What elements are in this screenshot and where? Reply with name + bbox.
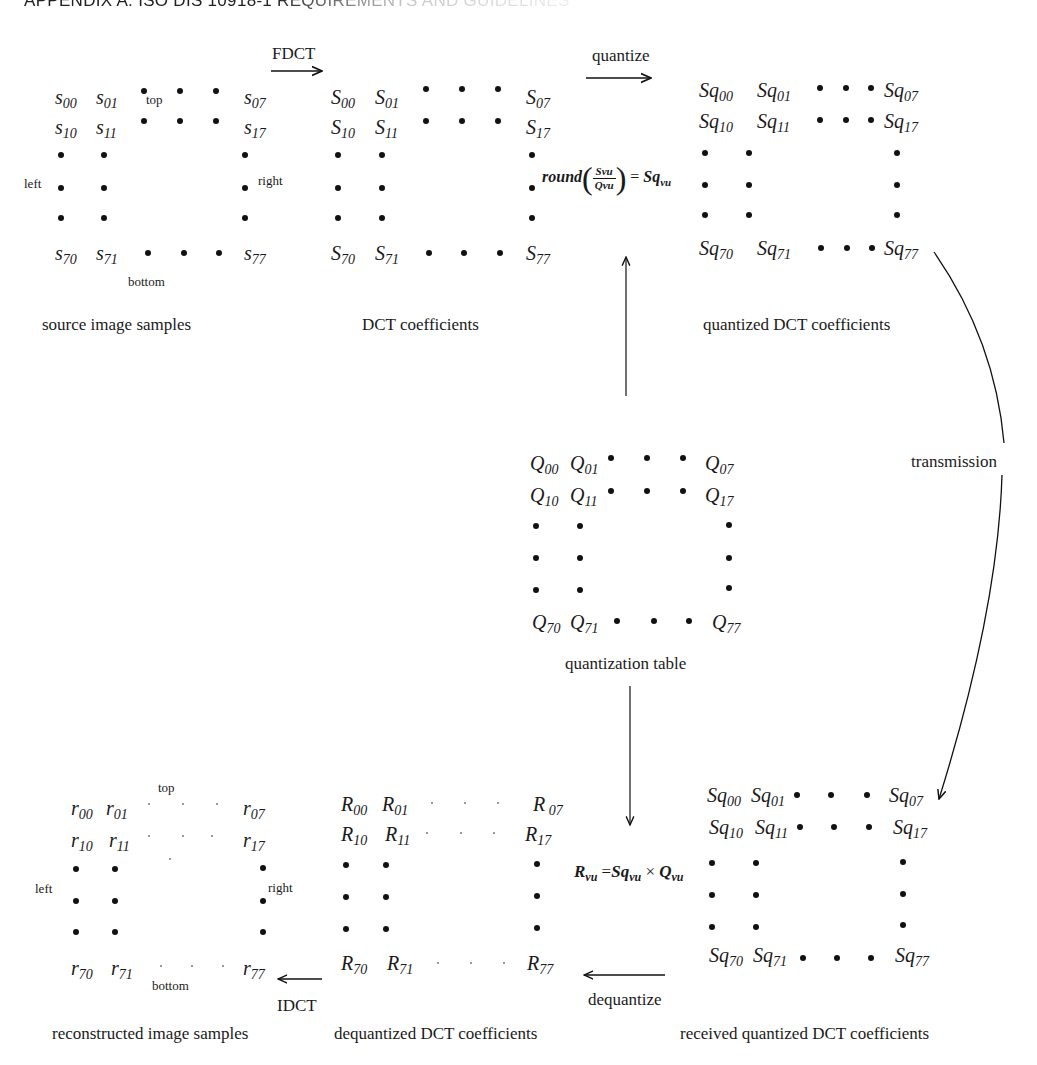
- fdct-label: FDCT: [272, 44, 315, 64]
- ellipsis-dot: [58, 215, 64, 221]
- ellipsis-dot: [900, 859, 906, 865]
- cell-r11: r11: [109, 830, 130, 854]
- cell-Sq11-received: Sq11: [755, 817, 788, 841]
- ellipsis-dot: [753, 860, 759, 866]
- ellipsis-dot: [493, 832, 495, 834]
- cell-S70: S70: [331, 243, 355, 267]
- ellipsis-dot: [753, 924, 759, 930]
- ellipsis-dot: [181, 250, 187, 256]
- ellipsis-dot: [726, 555, 732, 561]
- cell-r07: r07: [243, 798, 265, 822]
- cell-R01: R01: [382, 794, 408, 818]
- cell-r10: r10: [71, 830, 93, 854]
- cell-Q10: Q10: [530, 485, 558, 509]
- ellipsis-dot: [383, 862, 389, 868]
- cell-S07: S07: [526, 87, 550, 111]
- cell-r00: r00: [71, 798, 93, 822]
- transmission-curve-lower: [939, 475, 1002, 799]
- ellipsis-dot: [379, 185, 385, 191]
- ellipsis-dot: [101, 185, 107, 191]
- cell-Sq01-received: Sq01: [751, 785, 785, 809]
- cell-Sq00-received: Sq00: [707, 785, 741, 809]
- ellipsis-dot: [343, 926, 349, 932]
- ellipsis-dot: [868, 955, 874, 961]
- cell-Q07: Q07: [705, 453, 733, 477]
- cell-Sq70-received: Sq70: [709, 945, 743, 969]
- ellipsis-dot: [177, 88, 183, 94]
- ellipsis-dot: [141, 118, 147, 124]
- ellipsis-dot: [746, 212, 752, 218]
- source-left-label: left: [24, 176, 41, 192]
- ellipsis-dot: [702, 212, 708, 218]
- ellipsis-dot: [497, 802, 499, 804]
- cell-S77: S77: [526, 243, 550, 267]
- ellipsis-dot: [58, 152, 64, 158]
- ellipsis-dot: [379, 152, 385, 158]
- ellipsis-dot: [148, 835, 150, 837]
- ellipsis-dot: [470, 962, 472, 964]
- ellipsis-dot: [651, 618, 657, 624]
- cell-Q77: Q77: [712, 612, 740, 636]
- ellipsis-dot: [431, 802, 433, 804]
- cell-Sq10: Sq10: [699, 111, 733, 135]
- cell-Sq11: Sq11: [757, 111, 790, 135]
- cell-R70: R70: [341, 953, 367, 977]
- ellipsis-dot: [169, 858, 171, 860]
- ellipsis-dot: [843, 117, 849, 123]
- arrows-layer: [0, 0, 1037, 1065]
- cell-Sq17: Sq17: [884, 111, 918, 135]
- cell-S10: S10: [331, 117, 355, 141]
- ellipsis-dot: [702, 182, 708, 188]
- ellipsis-dot: [437, 962, 439, 964]
- cell-s11: s11: [96, 117, 117, 141]
- received-caption: received quantized DCT coefficients: [680, 1024, 929, 1044]
- ellipsis-dot: [577, 587, 583, 593]
- ellipsis-dot: [534, 861, 540, 867]
- dequantize-formula: Rvu =Sqvu × Qvu: [574, 862, 684, 885]
- ellipsis-dot: [460, 832, 462, 834]
- dequantize-label: dequantize: [588, 990, 662, 1010]
- ellipsis-dot: [497, 250, 503, 256]
- cell-s07: s07: [244, 87, 266, 111]
- ellipsis-dot: [260, 898, 266, 904]
- cell-Q11: Q11: [570, 485, 597, 509]
- transmission-label: transmission: [911, 452, 997, 472]
- dct-caption: DCT coefficients: [362, 315, 479, 335]
- ellipsis-dot: [709, 860, 715, 866]
- ellipsis-dot: [191, 965, 193, 967]
- ellipsis-dot: [343, 862, 349, 868]
- ellipsis-dot: [461, 250, 467, 256]
- ellipsis-dot: [577, 555, 583, 561]
- ellipsis-dot: [495, 118, 501, 124]
- source-bottom-label: bottom: [128, 274, 165, 290]
- cell-Sq77-received: Sq77: [895, 945, 929, 969]
- ellipsis-dot: [141, 88, 147, 94]
- ellipsis-dot: [529, 152, 535, 158]
- ellipsis-dot: [216, 803, 218, 805]
- reconstructed-caption: reconstructed image samples: [52, 1024, 248, 1044]
- ellipsis-dot: [503, 962, 505, 964]
- ellipsis-dot: [900, 891, 906, 897]
- ellipsis-dot: [423, 118, 429, 124]
- ellipsis-dot: [868, 85, 874, 91]
- idct-label: IDCT: [277, 996, 317, 1016]
- ellipsis-dot: [260, 929, 266, 935]
- ellipsis-dot: [709, 892, 715, 898]
- ellipsis-dot: [644, 488, 650, 494]
- ellipsis-dot: [73, 866, 79, 872]
- cell-Sq17-received: Sq17: [893, 817, 927, 841]
- cell-s00: s00: [55, 87, 77, 111]
- ellipsis-dot: [868, 117, 874, 123]
- ellipsis-dot: [753, 892, 759, 898]
- ellipsis-dot: [242, 215, 248, 221]
- cell-S11: S11: [375, 117, 398, 141]
- cell-Q71: Q71: [570, 612, 598, 636]
- cell-Q17: Q17: [705, 485, 733, 509]
- ellipsis-dot: [818, 245, 824, 251]
- ellipsis-dot: [894, 150, 900, 156]
- cell-r01: r01: [106, 798, 128, 822]
- reconstructed-left-label: left: [35, 881, 52, 897]
- cell-s17: s17: [244, 117, 266, 141]
- cell-Sq01: Sq01: [757, 80, 791, 104]
- ellipsis-dot: [58, 185, 64, 191]
